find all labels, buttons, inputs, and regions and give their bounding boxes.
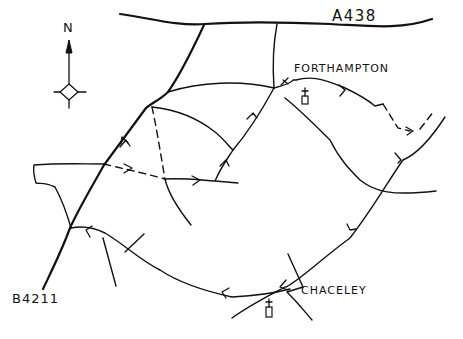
road-label-b4211: B4211 [12, 291, 59, 306]
route-east-loop [286, 117, 445, 287]
road-center-curve [152, 107, 233, 150]
church-icon [302, 88, 308, 104]
footpath-east-2 [420, 111, 434, 129]
footpath-center [104, 164, 165, 179]
road-chaceley-2 [232, 287, 285, 318]
road-north-east [168, 83, 274, 92]
church-icon [266, 299, 272, 317]
road-to-forthampton [273, 24, 277, 88]
route-south-loop [71, 227, 290, 297]
road-a438 [120, 14, 432, 26]
road-forthampton-south [285, 98, 436, 193]
footpath-north-south [152, 107, 165, 179]
route-direction-arrow-icon [86, 85, 413, 298]
road-spur-1 [103, 238, 116, 286]
road-b4211 [43, 25, 204, 289]
stile-icon [281, 78, 288, 85]
road-spur-2 [125, 234, 144, 252]
route-center-north [215, 88, 274, 181]
road-label-a438: A438 [332, 7, 377, 25]
north-label: N [63, 20, 74, 35]
compass-rose-icon [54, 40, 86, 108]
route-center [165, 179, 238, 183]
village-label-chaceley: CHACELEY [301, 284, 367, 297]
village-label-forthampton: FORTHAMPTON [294, 62, 389, 75]
route-west-loop [34, 164, 104, 228]
road-south-branch [165, 179, 191, 225]
route-map [0, 0, 463, 339]
